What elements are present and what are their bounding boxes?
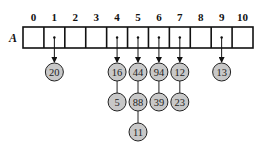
- node-value: 23: [175, 97, 186, 108]
- index-label: 8: [198, 11, 204, 23]
- index-label: 7: [177, 11, 183, 23]
- index-label: 4: [114, 11, 120, 23]
- index-label: 0: [31, 11, 37, 23]
- node-value: 16: [112, 67, 123, 78]
- node-value: 88: [133, 97, 144, 108]
- chain-nodes: 201654488119439122313: [45, 63, 230, 141]
- index-label: 5: [135, 11, 141, 23]
- node-value: 94: [154, 67, 165, 78]
- index-label: 9: [219, 11, 225, 23]
- index-label: 6: [156, 11, 162, 23]
- node-value: 44: [133, 67, 144, 78]
- node-value: 20: [49, 67, 60, 78]
- node-value: 5: [114, 97, 119, 108]
- index-label: 2: [73, 11, 79, 23]
- node-value: 11: [133, 127, 143, 138]
- index-label: 10: [237, 11, 249, 23]
- hash-table-chaining-diagram: A 012345678910 201654488119439122313: [0, 0, 266, 157]
- node-value: 12: [175, 67, 186, 78]
- index-label: 3: [93, 11, 99, 23]
- node-value: 39: [154, 97, 165, 108]
- array-label: A: [8, 31, 17, 45]
- index-label: 1: [52, 11, 58, 23]
- node-value: 13: [216, 67, 227, 78]
- array-indices: 012345678910: [31, 11, 249, 23]
